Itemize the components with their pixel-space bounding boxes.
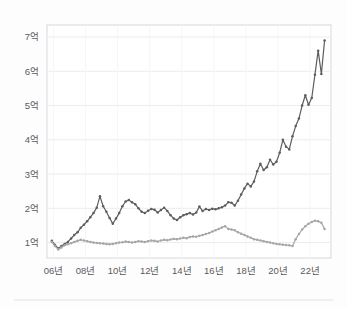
data-point xyxy=(217,228,220,231)
data-point xyxy=(285,145,288,148)
line-chart: 1억2억3억4억5억6억7억 06년08년10년12년14년16년18년20년2… xyxy=(0,0,347,309)
data-point xyxy=(124,200,127,203)
y-tick-label: 1억 xyxy=(25,237,39,248)
data-point xyxy=(224,225,227,228)
data-point xyxy=(124,240,127,243)
data-point xyxy=(246,182,249,185)
data-point xyxy=(144,241,147,244)
data-point xyxy=(195,211,198,214)
data-point xyxy=(173,217,176,220)
data-point xyxy=(298,233,301,236)
data-point xyxy=(86,220,89,223)
data-point xyxy=(163,239,166,242)
data-point xyxy=(285,244,288,247)
x-tick-label: 14년 xyxy=(172,265,192,276)
data-point xyxy=(51,241,54,244)
data-point xyxy=(140,240,143,243)
data-point xyxy=(233,204,236,207)
data-point xyxy=(291,245,294,248)
data-point xyxy=(243,187,246,190)
data-point xyxy=(76,231,79,234)
data-point xyxy=(253,238,256,241)
data-point xyxy=(105,243,108,246)
data-point xyxy=(214,229,217,232)
data-point xyxy=(198,205,201,208)
data-point xyxy=(198,234,201,237)
data-point xyxy=(79,227,82,230)
data-point xyxy=(301,104,304,107)
data-point xyxy=(99,242,102,245)
data-point xyxy=(217,207,220,210)
data-point xyxy=(307,222,310,225)
data-point xyxy=(233,229,236,232)
data-point xyxy=(294,125,297,128)
data-point xyxy=(179,216,182,219)
data-point xyxy=(137,207,140,210)
data-point xyxy=(115,242,118,245)
data-point xyxy=(282,139,285,142)
data-point xyxy=(291,135,294,138)
data-point xyxy=(201,210,204,213)
data-point xyxy=(278,243,281,246)
data-point xyxy=(67,241,70,244)
data-point xyxy=(95,206,98,209)
data-point xyxy=(323,39,326,42)
data-point xyxy=(128,199,131,202)
data-point xyxy=(105,210,108,213)
data-point xyxy=(108,217,111,220)
data-point xyxy=(272,163,275,166)
data-point xyxy=(63,244,66,247)
data-point xyxy=(314,219,317,222)
data-point xyxy=(73,234,76,237)
data-point xyxy=(86,240,89,243)
data-point xyxy=(185,237,188,240)
data-point xyxy=(311,221,314,224)
data-point xyxy=(205,233,208,236)
data-point xyxy=(95,242,98,245)
data-point xyxy=(185,213,188,216)
data-point xyxy=(134,203,137,206)
y-tick-label: 2억 xyxy=(25,203,39,214)
data-point xyxy=(298,117,301,120)
data-point xyxy=(256,170,259,173)
data-point xyxy=(195,236,198,239)
data-point xyxy=(227,228,230,231)
data-point xyxy=(121,205,124,208)
data-point xyxy=(92,241,95,244)
data-point xyxy=(54,245,57,248)
plot-area-frame xyxy=(47,25,331,258)
data-point xyxy=(205,208,208,211)
data-point xyxy=(144,212,147,215)
x-tick-label: 20년 xyxy=(268,265,288,276)
y-tick-label: 4억 xyxy=(25,134,39,145)
data-point xyxy=(224,204,227,207)
data-point xyxy=(156,240,159,243)
data-point xyxy=(160,239,163,242)
y-tick-label: 6억 xyxy=(25,66,39,77)
data-point xyxy=(253,180,256,183)
data-point xyxy=(121,241,124,244)
data-point xyxy=(214,208,217,211)
data-point xyxy=(67,243,70,246)
data-point xyxy=(150,239,153,242)
data-point xyxy=(211,230,214,233)
data-point xyxy=(320,221,323,224)
data-point xyxy=(169,214,172,217)
data-point xyxy=(317,220,320,223)
data-point xyxy=(288,148,291,151)
data-point xyxy=(282,243,285,246)
y-tick-label: 7억 xyxy=(25,31,39,42)
data-point xyxy=(76,240,79,243)
data-point xyxy=(266,166,269,169)
data-point xyxy=(288,244,291,247)
data-point xyxy=(201,234,204,237)
data-point xyxy=(275,243,278,246)
x-tick-label: 22년 xyxy=(300,265,320,276)
data-point xyxy=(182,237,185,240)
data-point xyxy=(259,239,262,242)
data-point xyxy=(230,228,233,231)
data-point xyxy=(301,228,304,231)
data-point xyxy=(153,208,156,211)
data-point xyxy=(70,237,73,240)
data-point xyxy=(189,236,192,239)
